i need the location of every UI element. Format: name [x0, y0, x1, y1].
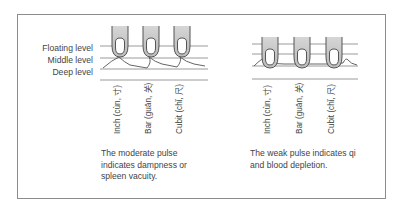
- right-cubit-label: Cubit (chǐ, 尺): [328, 84, 336, 134]
- finger-inch-right: [262, 37, 278, 68]
- right-caption: The weak pulse indicates qi and blood de…: [250, 148, 372, 171]
- left-inch-label: Inch (cùn, 寸): [114, 85, 122, 134]
- right-bar-label: Bar (guān, 关): [296, 83, 304, 134]
- finger-bar-left: [143, 26, 159, 57]
- finger-cubit-left: [174, 26, 190, 57]
- left-bar-label: Bar (guān, 关): [145, 83, 153, 134]
- finger-inch-left: [112, 26, 128, 57]
- finger-cubit-right: [326, 37, 342, 68]
- left-cubit-label: Cubit (chǐ, 尺): [176, 84, 184, 134]
- left-caption: The moderate pulse indicates dampness or…: [101, 148, 213, 183]
- moderate-pulse-wave: [103, 57, 205, 68]
- finger-bar-right: [294, 37, 310, 68]
- right-inch-label: Inch (cùn, 寸): [264, 85, 272, 134]
